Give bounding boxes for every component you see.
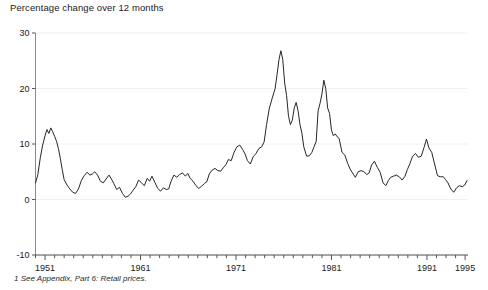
x-tick-label: 1961 bbox=[131, 263, 151, 273]
y-tick-label: -10 bbox=[16, 250, 29, 260]
x-tick-label: 1981 bbox=[321, 263, 341, 273]
x-tick-label: 1991 bbox=[417, 263, 437, 273]
line-chart-plot: -100102030195119611971198119911995 bbox=[0, 0, 488, 290]
y-tick-label: 0 bbox=[24, 195, 29, 205]
x-tick-label: 1971 bbox=[226, 263, 246, 273]
y-tick-label: 10 bbox=[19, 139, 29, 149]
y-tick-label: 20 bbox=[19, 84, 29, 94]
data-series-line bbox=[36, 51, 468, 198]
x-tick-label: 1995 bbox=[455, 263, 475, 273]
chart-figure: Percentage change over 12 months -100102… bbox=[0, 0, 488, 290]
chart-footnote: 1 See Appendix, Part 6: Retail prices. bbox=[14, 273, 147, 284]
y-tick-label: 30 bbox=[19, 28, 29, 38]
x-tick-label: 1951 bbox=[35, 263, 55, 273]
